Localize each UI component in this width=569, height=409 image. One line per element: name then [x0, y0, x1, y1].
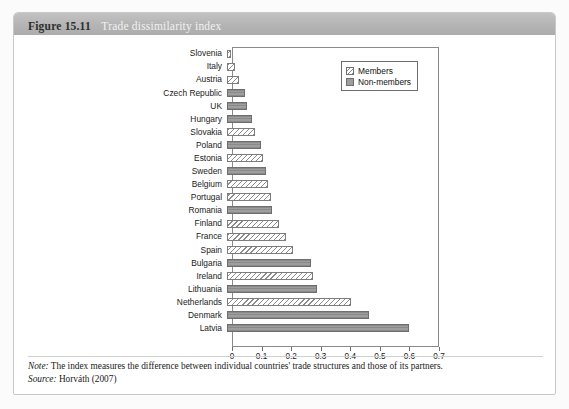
- bar-track: [227, 269, 439, 282]
- bar-italy: [227, 63, 235, 71]
- bar-finland: [227, 220, 279, 228]
- x-tick: [262, 347, 263, 351]
- bar-row: Romania: [14, 204, 439, 217]
- category-label: Ireland: [14, 272, 227, 280]
- bar-slovakia: [227, 128, 255, 136]
- bar-track: [227, 125, 439, 138]
- bar-track: [227, 47, 439, 60]
- bar-row: UK: [14, 99, 439, 112]
- bar-track: [227, 256, 439, 269]
- bar-track: [227, 112, 439, 125]
- note-label: Note:: [28, 361, 49, 371]
- footnote-divider: [28, 356, 543, 357]
- figure-title: Trade dissimilarity index: [101, 20, 221, 32]
- category-label: Slovakia: [14, 128, 227, 136]
- bar-track: [227, 178, 439, 191]
- chart-plot-area: SloveniaItalyAustriaCzech RepublicUKHung…: [14, 35, 555, 368]
- category-label: Hungary: [14, 115, 227, 123]
- legend-label-nonmembers: Non-members: [358, 77, 411, 87]
- bar-denmark: [227, 311, 369, 319]
- legend-item-nonmembers: Non-members: [346, 76, 411, 87]
- bar-poland: [227, 141, 261, 149]
- bar-row: Poland: [14, 139, 439, 152]
- bar-row: Finland: [14, 217, 439, 230]
- category-label: Belgium: [14, 180, 227, 188]
- bar-track: [227, 282, 439, 295]
- bar-row: Portugal: [14, 191, 439, 204]
- members-hatched-swatch: [346, 67, 354, 75]
- category-label: Denmark: [14, 311, 227, 319]
- category-label: Finland: [14, 219, 227, 227]
- bar-bulgaria: [227, 259, 311, 267]
- bar-track: [227, 99, 439, 112]
- note-text: The index measures the difference betwee…: [49, 361, 443, 371]
- bar-lithuania: [227, 285, 317, 293]
- bar-track: [227, 309, 439, 322]
- chart-legend: Members Non-members: [341, 61, 418, 91]
- x-tick: [232, 347, 233, 351]
- bar-track: [227, 217, 439, 230]
- bar-netherlands: [227, 298, 351, 306]
- legend-label-members: Members: [358, 66, 393, 76]
- bar-latvia: [227, 324, 409, 332]
- bar-czech-republic: [227, 89, 245, 97]
- bar-track: [227, 204, 439, 217]
- bar-row: Estonia: [14, 152, 439, 165]
- bar-portugal: [227, 193, 271, 201]
- x-tick: [380, 347, 381, 351]
- category-label: Latvia: [14, 324, 227, 332]
- bar-uk: [227, 102, 247, 110]
- category-label: France: [14, 232, 227, 240]
- bar-row: Belgium: [14, 178, 439, 191]
- bar-track: [227, 295, 439, 308]
- source-line: Source: Horváth (2007): [28, 373, 548, 386]
- bar-track: [227, 165, 439, 178]
- bar-row: Netherlands: [14, 295, 439, 308]
- category-label: Bulgaria: [14, 259, 227, 267]
- category-label: Spain: [14, 246, 227, 254]
- category-label: Italy: [14, 62, 227, 70]
- screenshot-root: Figure 15.11 Trade dissimilarity index S…: [0, 0, 569, 409]
- category-label: Estonia: [14, 154, 227, 162]
- bar-track: [227, 322, 439, 335]
- bar-track: [227, 139, 439, 152]
- figure-title-bar: Figure 15.11 Trade dissimilarity index: [14, 13, 555, 35]
- bar-rows-container: SloveniaItalyAustriaCzech RepublicUKHung…: [14, 47, 439, 347]
- source-label: Source:: [28, 374, 57, 384]
- x-tick: [350, 347, 351, 351]
- bar-track: [227, 152, 439, 165]
- x-tick: [291, 347, 292, 351]
- bar-row: Slovakia: [14, 125, 439, 138]
- category-label: Netherlands: [14, 298, 227, 306]
- bar-ireland: [227, 272, 313, 280]
- category-label: Sweden: [14, 167, 227, 175]
- bar-belgium: [227, 180, 268, 188]
- bar-estonia: [227, 154, 263, 162]
- category-label: Romania: [14, 206, 227, 214]
- bar-row: Latvia: [14, 322, 439, 335]
- category-label: Slovenia: [14, 49, 227, 57]
- bar-row: Hungary: [14, 112, 439, 125]
- bar-row: France: [14, 230, 439, 243]
- category-label: Portugal: [14, 193, 227, 201]
- bar-row: Denmark: [14, 309, 439, 322]
- source-text: Horváth (2007): [57, 374, 117, 384]
- category-label: Austria: [14, 75, 227, 83]
- bar-row: Bulgaria: [14, 256, 439, 269]
- bar-row: Sweden: [14, 165, 439, 178]
- legend-item-members: Members: [346, 65, 411, 76]
- note-line: Note: The index measures the difference …: [28, 360, 548, 373]
- bar-row: Spain: [14, 243, 439, 256]
- bar-romania: [227, 206, 272, 214]
- figure-panel: Figure 15.11 Trade dissimilarity index S…: [13, 12, 556, 395]
- bar-slovenia: [227, 50, 231, 58]
- bar-track: [227, 230, 439, 243]
- figure-footnotes: Note: The index measures the difference …: [28, 360, 548, 386]
- figure-number: Figure 15.11: [28, 20, 91, 32]
- category-label: Poland: [14, 141, 227, 149]
- nonmembers-gray-swatch: [346, 78, 354, 86]
- x-tick: [409, 347, 410, 351]
- bar-spain: [227, 246, 293, 254]
- bar-row: Ireland: [14, 269, 439, 282]
- bar-france: [227, 233, 286, 241]
